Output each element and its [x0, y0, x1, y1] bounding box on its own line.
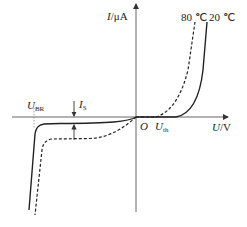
curve-20c-reverse	[29, 117, 136, 210]
legend-80c: 80 ℃	[181, 11, 207, 23]
curve-80c-reverse	[35, 117, 136, 215]
curve-20c-forward	[136, 22, 207, 117]
y-axis-label: I/μA	[106, 10, 128, 22]
origin-label: O	[140, 120, 148, 132]
threshold-label: Uth	[155, 120, 169, 134]
diode-iv-diagram: I/μA 80 ℃ 20 ℃ UBR IS O Uth U/V	[0, 0, 247, 227]
x-axis-label: U/V	[212, 121, 231, 133]
curve-80c-forward	[136, 22, 195, 117]
legend-20c: 20 ℃	[209, 11, 235, 23]
saturation-label: IS	[78, 98, 87, 112]
breakdown-label: UBR	[27, 99, 45, 113]
